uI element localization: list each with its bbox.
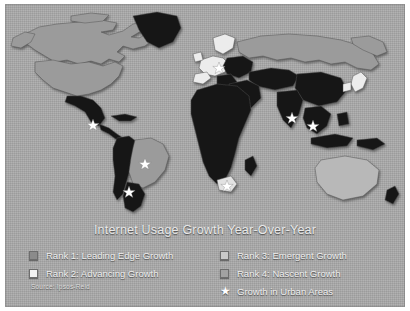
world-choropleth-map <box>5 4 405 219</box>
legend-item-rank-4[interactable]: Rank 4: Nascent Growth <box>220 265 347 282</box>
region-new-zealand <box>385 186 399 204</box>
region-canada <box>25 20 155 64</box>
legend-item-urban-growth[interactable]: ★ Growth in Urban Areas <box>220 283 347 300</box>
legend-left-column: Rank 1: Leading Edge Growth Rank 2: Adva… <box>29 247 173 283</box>
map-legend: Rank 1: Leading Edge Growth Rank 2: Adva… <box>5 247 405 303</box>
legend-item-rank-1[interactable]: Rank 1: Leading Edge Growth <box>29 247 173 264</box>
region-iberia <box>193 72 211 84</box>
region-scandinavia <box>213 34 235 54</box>
star-icon: ★ <box>220 286 229 297</box>
region-south-korea <box>343 82 351 92</box>
rank-3-swatch <box>220 251 229 260</box>
region-british-isles <box>193 52 203 62</box>
region-japan <box>351 72 367 92</box>
legend-item-rank-2-label: Rank 2: Advancing Growth <box>46 268 158 279</box>
region-mexico <box>65 96 105 126</box>
region-africa <box>191 84 251 184</box>
legend-item-rank-4-label: Rank 4: Nascent Growth <box>237 268 341 279</box>
map-title: Internet Usage Growth Year-Over-Year <box>5 223 405 237</box>
source-attribution: Source: Ipsos-Reid <box>31 283 90 290</box>
region-southeast-asia <box>303 106 331 134</box>
region-philippines <box>337 112 349 126</box>
region-caribbean <box>111 114 137 121</box>
legend-item-rank-3-label: Rank 3: Emergent Growth <box>237 250 347 261</box>
region-indonesia <box>311 134 353 148</box>
screenshot-root: Internet Usage Growth Year-Over-Year Ran… <box>0 0 410 311</box>
legend-item-urban-growth-label: Growth in Urban Areas <box>237 286 333 297</box>
legend-right-column: Rank 3: Emergent Growth Rank 4: Nascent … <box>220 247 347 300</box>
rank-4-swatch <box>220 269 229 278</box>
world-map-svg <box>5 4 405 219</box>
legend-item-rank-2[interactable]: Rank 2: Advancing Growth <box>29 265 173 282</box>
rank-1-swatch <box>29 251 38 260</box>
region-png <box>357 138 385 150</box>
legend-item-rank-3[interactable]: Rank 3: Emergent Growth <box>220 247 347 264</box>
region-madagascar <box>245 156 257 176</box>
rank-2-swatch <box>29 269 38 278</box>
legend-item-rank-1-label: Rank 1: Leading Edge Growth <box>46 250 173 261</box>
map-poster-panel: Internet Usage Growth Year-Over-Year Ran… <box>5 4 405 307</box>
region-australia <box>315 156 379 200</box>
region-united-states <box>35 60 123 96</box>
